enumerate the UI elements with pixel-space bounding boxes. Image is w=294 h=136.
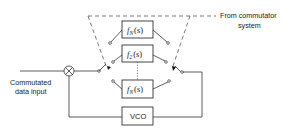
right-switch-wiper [175,66,181,72]
left-switch-arrow-icon [107,66,111,70]
input-label-line1: Commutated [10,78,51,87]
multiplier-icon [64,66,74,76]
left-contact-1 [109,42,112,45]
commutator-label-line2: system [238,21,261,30]
right-contact-2 [165,61,168,64]
left-switch-wiper [99,64,106,71]
svg-text:VCO: VCO [130,112,146,121]
input-label-line2: data input [15,87,47,96]
commutated-pll-diagram: From commutator system Commutated data i… [0,0,294,136]
right-switch-pivot [181,71,184,74]
vco-block: VCO [122,107,153,125]
right-contact-1 [167,42,170,45]
svg-text:f2(s): f2(s) [127,49,142,60]
commutator-label-line1: From commutator [220,11,277,20]
filter-block-n-top: fN(s) [122,21,153,38]
left-contact-3 [112,80,115,83]
filter-block-2: f2(s) [122,45,153,62]
switch-to-vco-line [153,72,202,117]
filter-block-n-bottom: fN(s) [122,80,153,98]
right-contact-3 [168,80,171,83]
left-contact-2 [112,61,115,64]
